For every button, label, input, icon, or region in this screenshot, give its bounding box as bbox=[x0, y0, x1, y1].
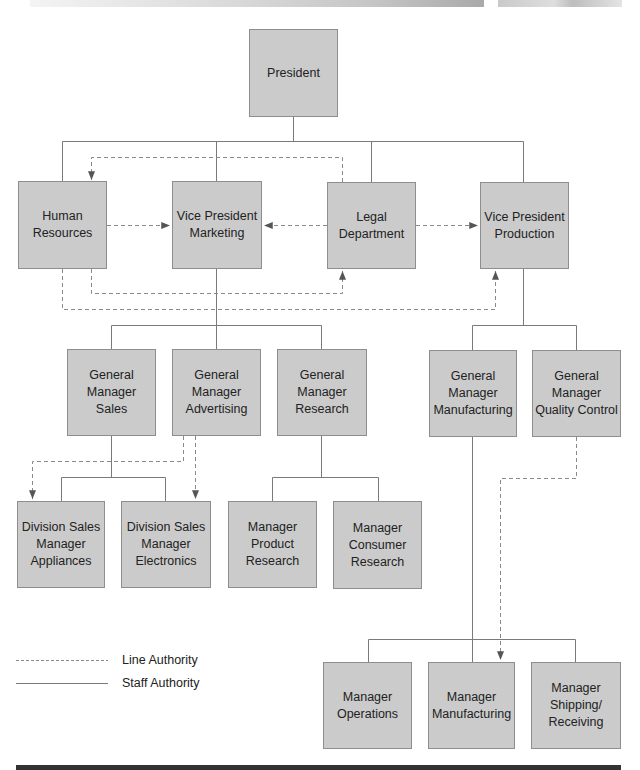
node-vp-marketing: Vice President Marketing bbox=[172, 181, 262, 269]
node-label: General Manager Research bbox=[295, 367, 349, 418]
node-mgr-operations: Manager Operations bbox=[323, 662, 412, 749]
node-label: Manager Manufacturing bbox=[432, 689, 511, 723]
node-mgr-product-research: Manager Product Research bbox=[228, 501, 317, 588]
node-dsm-electronics: Division Sales Manager Electronics bbox=[121, 501, 211, 588]
node-label: Division Sales Manager Appliances bbox=[22, 519, 101, 570]
node-label: Manager Shipping/ Receiving bbox=[549, 680, 604, 731]
node-label: General Manager Manufacturing bbox=[433, 368, 512, 419]
node-label: Manager Product Research bbox=[246, 519, 300, 570]
node-label: Division Sales Manager Electronics bbox=[127, 519, 206, 570]
node-label: President bbox=[267, 65, 320, 82]
node-label: Manager Consumer Research bbox=[349, 520, 407, 571]
node-label: Manager Operations bbox=[337, 689, 398, 723]
footer-rule bbox=[16, 765, 621, 770]
node-gm-manufacturing: General Manager Manufacturing bbox=[429, 350, 517, 437]
node-gm-advertising: General Manager Advertising bbox=[172, 349, 261, 436]
node-label: Human Resources bbox=[33, 208, 93, 242]
node-label: Legal Department bbox=[339, 209, 404, 243]
node-legal-department: Legal Department bbox=[327, 182, 416, 269]
node-vp-production: Vice President Production bbox=[480, 182, 569, 269]
node-human-resources: Human Resources bbox=[18, 181, 107, 269]
node-label: General Manager Sales bbox=[87, 367, 136, 418]
legend-staff-authority-label: Staff Authority bbox=[122, 676, 200, 690]
node-mgr-shipping-receiving: Manager Shipping/ Receiving bbox=[531, 662, 621, 749]
node-president: President bbox=[249, 29, 338, 117]
node-gm-sales: General Manager Sales bbox=[67, 349, 156, 436]
node-label: Vice President Production bbox=[484, 209, 564, 243]
node-label: Vice President Marketing bbox=[177, 208, 257, 242]
node-label: General Manager Advertising bbox=[186, 367, 248, 418]
node-gm-research: General Manager Research bbox=[277, 349, 367, 436]
node-mgr-consumer-research: Manager Consumer Research bbox=[333, 501, 422, 589]
node-mgr-manufacturing: Manager Manufacturing bbox=[428, 662, 515, 749]
node-label: General Manager Quality Control bbox=[535, 368, 618, 419]
node-dsm-appliances: Division Sales Manager Appliances bbox=[17, 501, 105, 588]
legend-line-authority-label: Line Authority bbox=[122, 653, 198, 667]
node-gm-quality-control: General Manager Quality Control bbox=[532, 350, 621, 437]
